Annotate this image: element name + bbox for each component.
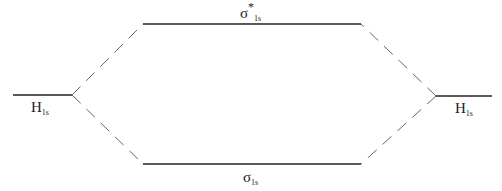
- right-to-antibonding-connector: [361, 24, 436, 96]
- left-to-antibonding-connector: [72, 24, 143, 95]
- antibonding-label: σ*1s: [240, 6, 261, 21]
- left-atomic-symbol: H: [31, 99, 42, 115]
- right-atomic-label: H1s: [455, 101, 473, 116]
- antibonding-subscript: 1s: [254, 14, 261, 23]
- bonding-label: σ1s: [243, 170, 258, 185]
- right-atomic-symbol: H: [455, 100, 466, 116]
- left-atomic-subscript: 1s: [42, 108, 49, 117]
- left-atomic-label: H1s: [31, 100, 49, 115]
- antibonding-superscript: *: [248, 0, 254, 14]
- bonding-symbol: σ: [243, 169, 251, 185]
- bonding-subscript: 1s: [251, 178, 258, 187]
- right-to-bonding-connector: [361, 96, 436, 164]
- antibonding-symbol: σ: [240, 5, 248, 21]
- right-atomic-subscript: 1s: [466, 109, 473, 118]
- left-to-bonding-connector: [72, 95, 143, 164]
- mo-diagram-canvas: [0, 0, 502, 191]
